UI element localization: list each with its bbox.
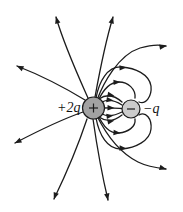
negative-charge-label: −q [143,101,159,117]
arrowhead-icon [119,145,126,151]
field-line-down [54,119,87,199]
arrowhead-icon [107,118,115,125]
field-diagram: +2q −q [0,0,183,212]
positive-charge-label: +2q [57,100,80,116]
arrowhead-icon [113,79,120,85]
arrowhead-icon [109,16,116,24]
arrowhead-icon [107,105,114,111]
arrowhead-icon [159,165,167,172]
arrowhead-icon [119,65,126,71]
arrowhead-icon [53,16,60,24]
arrowhead-icon [51,192,58,200]
field-line-left-down [15,112,83,143]
arrowhead-icon [15,63,24,71]
arrowhead-icon [13,138,22,146]
field-line-direct-2 [102,100,122,105]
arrowhead-icon [113,130,120,136]
arrowhead-icon [106,97,114,103]
field-line-up-left [17,66,85,100]
